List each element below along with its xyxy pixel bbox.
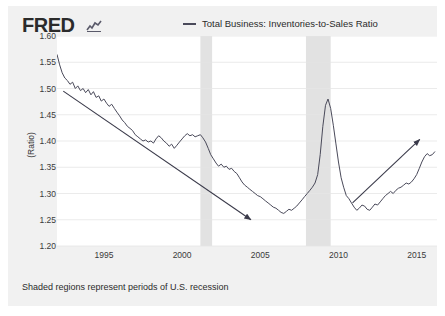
- x-tick-label: 1995: [94, 250, 113, 260]
- plot-area: (Ratio) 1.601.551.501.451.401.351.301.25…: [8, 36, 437, 274]
- y-tick-label: 1.60: [22, 31, 56, 41]
- x-tick-label: 2000: [173, 250, 192, 260]
- x-tick-label: 2015: [407, 250, 426, 260]
- chart-legend: Total Business: Inventories-to-Sales Rat…: [183, 18, 378, 29]
- y-axis-ticks: 1.601.551.501.451.401.351.301.251.20: [18, 36, 56, 246]
- legend-color-swatch: [183, 23, 196, 25]
- y-tick-label: 1.35: [22, 162, 56, 172]
- y-tick-label: 1.40: [22, 136, 56, 146]
- y-tick-label: 1.50: [22, 84, 56, 94]
- y-tick-label: 1.45: [22, 110, 56, 120]
- x-axis-ticks: 19952000200520102015: [57, 248, 437, 268]
- legend-label: Total Business: Inventories-to-Sales Rat…: [202, 18, 378, 29]
- chart-canvas: [57, 36, 437, 248]
- y-tick-label: 1.25: [22, 215, 56, 225]
- y-tick-label: 1.20: [22, 241, 56, 251]
- y-tick-label: 1.30: [22, 189, 56, 199]
- x-tick-label: 2010: [329, 250, 348, 260]
- x-tick-label: 2005: [251, 250, 270, 260]
- line-chart-icon: [86, 18, 102, 36]
- y-tick-label: 1.55: [22, 57, 56, 67]
- footer-note: Shaded regions represent periods of U.S.…: [22, 282, 229, 292]
- chart-header: FRED Total Business: Inventories-to-Sale…: [8, 6, 437, 38]
- fred-chart-card: FRED Total Business: Inventories-to-Sale…: [8, 6, 437, 306]
